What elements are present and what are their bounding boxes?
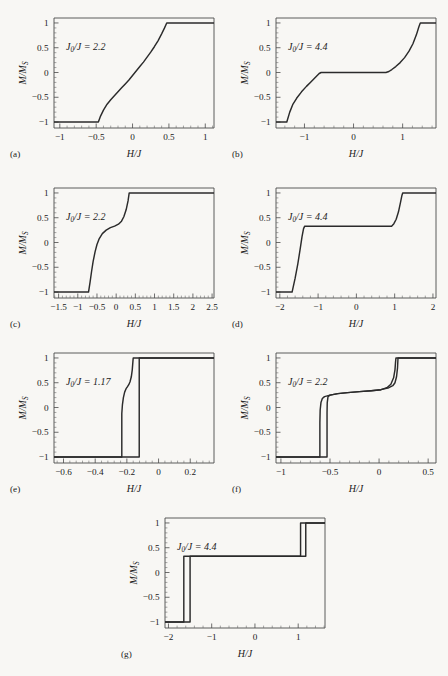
x-tick-label: 0.5 bbox=[163, 132, 175, 142]
x-tick-label: −1 bbox=[300, 132, 310, 142]
x-tick-label: −0.5 bbox=[89, 302, 106, 312]
plot-g: −2−101−1−0.500.51M/MSH/J(g)J0/J = 4.4 bbox=[119, 508, 331, 668]
x-tick-label: −0.5 bbox=[322, 467, 339, 477]
x-tick-label: −1 bbox=[207, 632, 217, 642]
y-tick-label: 0 bbox=[266, 403, 271, 413]
x-tick-label: −0.2 bbox=[119, 467, 136, 477]
y-tick-label: 1 bbox=[44, 18, 49, 28]
y-tick-label: −0.5 bbox=[32, 92, 49, 102]
x-tick-label: 0.5 bbox=[422, 467, 434, 477]
y-tick-label: 0.5 bbox=[37, 378, 49, 388]
x-tick-label: −0.6 bbox=[55, 467, 72, 477]
panel-f: −1−0.500.5−1−0.500.51M/MSH/J(f)J0/J = 2.… bbox=[230, 343, 442, 503]
x-tick-label: −0.5 bbox=[88, 132, 105, 142]
y-tick-label: −0.5 bbox=[254, 92, 271, 102]
panel-b: −101−1−0.500.51M/MSH/J(b)J0/J = 4.4 bbox=[230, 8, 442, 168]
y-tick-label: 1 bbox=[266, 188, 271, 198]
y-tick-label: −1 bbox=[261, 452, 271, 462]
x-tick-label: 0 bbox=[130, 132, 135, 142]
x-axis-label: H/J bbox=[126, 483, 142, 494]
x-tick-label: 1.5 bbox=[168, 302, 180, 312]
x-tick-label: −2 bbox=[275, 302, 285, 312]
y-tick-label: −1 bbox=[39, 117, 49, 127]
x-tick-label: 0 bbox=[354, 302, 359, 312]
y-tick-label: 0.5 bbox=[148, 543, 160, 553]
y-tick-label: −0.5 bbox=[254, 262, 271, 272]
y-axis-label: M/MS bbox=[128, 561, 141, 585]
plot-d: −2−1012−1−0.500.51M/MSH/J(d)J0/J = 4.4 bbox=[230, 178, 442, 338]
x-tick-label: 1 bbox=[392, 302, 397, 312]
x-tick-label: 2.5 bbox=[206, 302, 218, 312]
y-tick-label: 0 bbox=[44, 238, 49, 248]
curve-M/Ms vs H/J bbox=[276, 23, 436, 122]
plot-b: −101−1−0.500.51M/MSH/J(b)J0/J = 4.4 bbox=[230, 8, 442, 168]
y-tick-label: 1 bbox=[155, 518, 160, 528]
y-axis-label: M/MS bbox=[239, 396, 252, 420]
annotation-coupling-ratio: J0/J = 4.4 bbox=[177, 541, 217, 554]
x-axis-label: H/J bbox=[348, 318, 364, 329]
y-tick-label: 0.5 bbox=[259, 378, 271, 388]
y-tick-label: −1 bbox=[39, 452, 49, 462]
panel-tag: (d) bbox=[232, 319, 243, 329]
x-axis-label: H/J bbox=[348, 148, 364, 159]
curve-M/Ms vs H/J bbox=[276, 193, 436, 292]
y-tick-label: −1 bbox=[150, 617, 160, 627]
y-tick-label: 0 bbox=[155, 568, 160, 578]
panel-tag: (a) bbox=[10, 149, 20, 159]
y-tick-label: 1 bbox=[44, 353, 49, 363]
plot-f: −1−0.500.5−1−0.500.51M/MSH/J(f)J0/J = 2.… bbox=[230, 343, 442, 503]
panel-tag: (b) bbox=[232, 149, 243, 159]
panel-tag: (c) bbox=[10, 319, 20, 329]
y-tick-label: −0.5 bbox=[32, 262, 49, 272]
x-tick-label: 2 bbox=[191, 302, 196, 312]
x-tick-label: 2 bbox=[431, 302, 436, 312]
x-tick-label: −1 bbox=[276, 467, 286, 477]
panel-tag: (f) bbox=[232, 484, 241, 494]
x-tick-label: 0 bbox=[156, 467, 161, 477]
y-tick-label: 0 bbox=[266, 238, 271, 248]
y-tick-label: 0.5 bbox=[37, 43, 49, 53]
panel-e: −0.6−0.4−0.200.2−1−0.500.51M/MSH/J(e)J0/… bbox=[8, 343, 220, 503]
annotation-coupling-ratio: J0/J = 2.2 bbox=[288, 376, 328, 389]
y-tick-label: 1 bbox=[44, 188, 49, 198]
x-axis-label: H/J bbox=[126, 148, 142, 159]
panel-tag: (e) bbox=[10, 484, 20, 494]
x-tick-label: −1.5 bbox=[50, 302, 67, 312]
curve-descending-branch bbox=[54, 358, 214, 457]
panel-g: −2−101−1−0.500.51M/MSH/J(g)J0/J = 4.4 bbox=[119, 508, 331, 668]
y-tick-label: 1 bbox=[266, 18, 271, 28]
y-tick-label: −1 bbox=[39, 287, 49, 297]
y-tick-label: 0 bbox=[44, 403, 49, 413]
y-axis-label: M/MS bbox=[17, 231, 30, 255]
panel-a: −1−0.500.51−1−0.500.51M/MSH/J(a)J0/J = 2… bbox=[8, 8, 220, 168]
x-tick-label: 0 bbox=[351, 132, 356, 142]
y-tick-label: 0.5 bbox=[259, 213, 271, 223]
y-tick-label: 0 bbox=[44, 68, 49, 78]
plot-e: −0.6−0.4−0.200.2−1−0.500.51M/MSH/J(e)J0/… bbox=[8, 343, 220, 503]
x-tick-label: 0 bbox=[253, 632, 258, 642]
annotation-coupling-ratio: J0/J = 1.17 bbox=[66, 376, 112, 389]
plot-c: −1.5−1−0.500.511.522.5−1−0.500.51M/MSH/J… bbox=[8, 178, 220, 338]
y-tick-label: 0.5 bbox=[37, 213, 49, 223]
x-tick-label: −1 bbox=[55, 132, 65, 142]
x-tick-label: 0.5 bbox=[130, 302, 142, 312]
curve-ascending-branch bbox=[276, 358, 436, 457]
y-tick-label: −1 bbox=[261, 287, 271, 297]
annotation-coupling-ratio: J0/J = 4.4 bbox=[288, 41, 328, 54]
y-tick-label: −0.5 bbox=[32, 427, 49, 437]
x-tick-label: 0 bbox=[377, 467, 382, 477]
x-tick-label: −2 bbox=[164, 632, 174, 642]
panel-d: −2−1012−1−0.500.51M/MSH/J(d)J0/J = 4.4 bbox=[230, 178, 442, 338]
x-tick-label: −1 bbox=[73, 302, 83, 312]
x-tick-label: −1 bbox=[313, 302, 323, 312]
x-tick-label: −0.4 bbox=[87, 467, 104, 477]
plot-a: −1−0.500.51−1−0.500.51M/MSH/J(a)J0/J = 2… bbox=[8, 8, 220, 168]
y-tick-label: −1 bbox=[261, 117, 271, 127]
curve-M/Ms vs H/J bbox=[54, 23, 214, 122]
x-tick-label: 1 bbox=[400, 132, 405, 142]
curve-ascending-branch bbox=[54, 358, 214, 457]
y-axis-label: M/MS bbox=[239, 61, 252, 85]
y-tick-label: 1 bbox=[266, 353, 271, 363]
magnetization-figure: −1−0.500.51−1−0.500.51M/MSH/J(a)J0/J = 2… bbox=[0, 0, 448, 676]
y-tick-label: −0.5 bbox=[254, 427, 271, 437]
